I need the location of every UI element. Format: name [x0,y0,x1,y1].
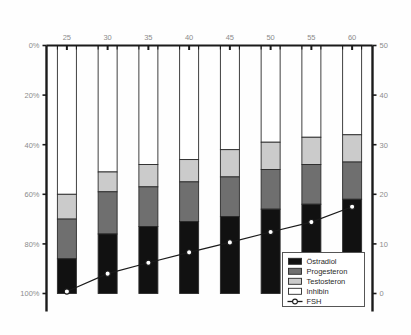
x-tick-label: 30 [103,33,111,42]
x-tick-label: 50 [266,33,274,42]
x-tick-label: 40 [185,33,193,42]
x-tick-label: 60 [348,33,356,42]
legend-swatch [289,258,302,264]
y-right-tick-label: 40 [380,91,388,100]
legend-swatch [289,278,302,284]
y-left-tick-label: 40% [24,141,39,150]
bar-segment-progesteron [180,182,199,222]
x-tick-label: 35 [144,33,152,42]
bar-group [139,46,158,294]
y-left-tick-label: 20% [24,91,39,100]
bar-group [180,46,199,294]
y-right-tick-label: 0 [380,289,384,298]
y-left-tick-label: 80% [24,240,39,249]
fsh-data-point [227,240,232,245]
bar-group [261,46,280,294]
legend-label: Östradiol [307,257,337,266]
bar-group [98,46,117,294]
bar-segment-testosteron [180,160,199,182]
y-right-tick-label: 30 [380,141,388,150]
fsh-data-point [146,260,151,265]
bar-segment-testosteron [220,150,239,177]
bar-segment-progesteron [261,170,280,210]
legend-swatch [289,288,302,294]
y-right-tick-label: 10 [380,240,388,249]
bar-segment-inhibin [343,46,362,135]
bar-segment-progesteron [98,192,117,234]
fsh-data-point [187,250,192,255]
y-left-tick-label: 60% [24,190,39,199]
chart-legend: ÖstradiolProgesteronTestosteronInhibinFS… [283,253,365,307]
fsh-data-point [64,289,69,294]
legend-swatch [289,268,302,274]
bar-segment-östradiol [220,217,239,294]
bar-segment-inhibin [261,46,280,143]
bar-segment-östradiol [98,234,117,294]
chart-container: Alter 2530354045505560 0%20%40%60%80%100… [0,0,411,335]
legend-marker [293,299,298,304]
bar-segment-östradiol [261,209,280,293]
bar-segment-inhibin [57,46,76,195]
x-tick-label: 55 [307,33,315,42]
bar-segment-progesteron [57,219,76,259]
x-tick-label: 25 [63,33,71,42]
bar-segment-testosteron [139,165,158,187]
x-tick-label: 45 [226,33,234,42]
legend-label: Progesteron [307,267,348,276]
bar-segment-inhibin [139,46,158,165]
y-left-tick-label: 0% [29,41,40,50]
bar-segment-testosteron [343,135,362,162]
fsh-data-point [309,219,314,224]
chart-svg: 2530354045505560 0%20%40%60%80%100% 0102… [0,0,411,335]
fsh-data-point [350,204,355,209]
bar-group [57,46,76,294]
bar-segment-progesteron [220,177,239,217]
bar-segment-progesteron [139,187,158,227]
y-left-tick-label: 100% [20,289,40,298]
legend-label: Testosteron [307,277,346,286]
legend-label: Inhibin [307,287,329,296]
bar-segment-inhibin [98,46,117,172]
fsh-data-point [268,229,273,234]
bar-segment-progesteron [343,162,362,199]
bar-segment-inhibin [220,46,239,150]
bar-group [220,46,239,294]
legend-label: FSH [307,297,322,306]
bar-segment-östradiol [180,222,199,294]
bar-segment-testosteron [57,194,76,219]
bar-segment-testosteron [261,142,280,169]
y-right-tick-label: 20 [380,190,388,199]
fsh-data-point [105,271,110,276]
bar-segment-inhibin [180,46,199,160]
bar-segment-progesteron [302,165,321,205]
bar-segment-testosteron [302,137,321,164]
y-right-tick-label: 50 [380,41,388,50]
bar-segment-inhibin [302,46,321,138]
bar-segment-testosteron [98,172,117,192]
